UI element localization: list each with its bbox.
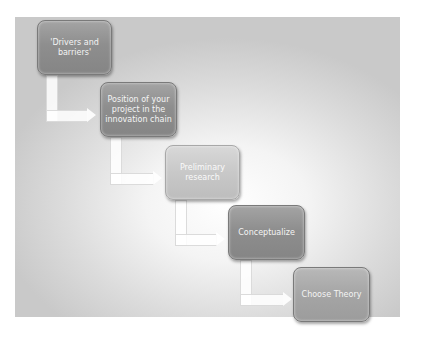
step-label: Choose Theory [302, 290, 362, 300]
step-label: Preliminary research [170, 163, 235, 183]
step-box-preliminary-research: Preliminary research [165, 145, 240, 200]
step-box-drivers-and-barriers: 'Drivers and barriers' [37, 20, 112, 75]
step-label: Conceptualize [238, 228, 295, 238]
step-label: 'Drivers and barriers' [42, 38, 107, 58]
step-box-conceptualize: Conceptualize [228, 205, 305, 260]
step-box-position-in-innovation-chain: Position of your project in the innovati… [100, 82, 177, 137]
step-label: Position of your project in the innovati… [105, 95, 172, 125]
step-box-choose-theory: Choose Theory [293, 267, 370, 322]
